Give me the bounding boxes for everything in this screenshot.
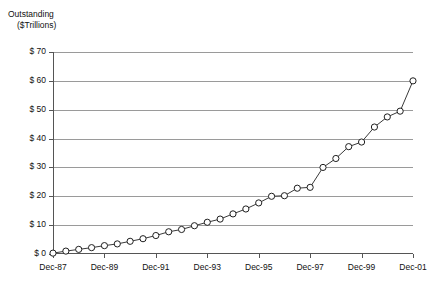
data-point-marker (114, 241, 120, 247)
chart-title: Outstanding ($Trillions) (8, 9, 56, 31)
x-axis-tick-mark (104, 254, 105, 258)
data-point-marker (166, 229, 172, 235)
y-axis-tick-label: $ 30 (2, 162, 46, 171)
data-point-marker (243, 206, 249, 212)
data-point-marker (178, 226, 184, 232)
y-axis-tick-label: $ 0 (2, 249, 46, 258)
data-point-marker (397, 108, 403, 114)
plot-area (53, 52, 413, 254)
data-point-marker (307, 184, 313, 190)
x-axis-tick-label: Dec-01 (387, 262, 439, 272)
y-axis-tick-label: $ 70 (2, 47, 46, 56)
x-axis-tick-label: Dec-87 (27, 262, 79, 272)
data-point-marker (50, 250, 56, 256)
x-axis-tick-label: Dec-93 (181, 262, 233, 272)
x-axis-tick-mark (207, 254, 208, 258)
data-point-marker (230, 211, 236, 217)
chart-title-line-2: ($Trillions) (8, 20, 56, 31)
data-point-marker (320, 164, 326, 170)
data-point-marker (371, 124, 377, 130)
series-markers (50, 78, 416, 256)
data-point-marker (101, 243, 107, 249)
x-axis-tick-label: Dec-91 (130, 262, 182, 272)
series-line (53, 81, 413, 253)
data-point-marker (191, 223, 197, 229)
x-axis-tick-label: Dec-97 (284, 262, 336, 272)
data-point-marker (204, 219, 210, 225)
x-axis-tick-mark (413, 254, 414, 258)
data-point-marker (256, 200, 262, 206)
data-point-marker (346, 144, 352, 150)
data-point-marker (127, 238, 133, 244)
data-point-marker (76, 246, 82, 252)
data-point-marker (63, 248, 69, 254)
x-axis-tick-mark (156, 254, 157, 258)
x-axis-tick-label: Dec-99 (336, 262, 388, 272)
data-series (53, 52, 413, 254)
x-axis-tick-label: Dec-89 (78, 262, 130, 272)
data-point-marker (88, 245, 94, 251)
data-point-marker (294, 185, 300, 191)
data-point-marker (281, 193, 287, 199)
data-point-marker (217, 216, 223, 222)
x-axis-tick-mark (259, 254, 260, 258)
data-point-marker (384, 114, 390, 120)
y-axis-tick-label: $ 50 (2, 105, 46, 114)
y-axis-tick-label: $ 60 (2, 76, 46, 85)
data-point-marker (410, 78, 416, 84)
data-point-marker (140, 236, 146, 242)
data-point-marker (268, 193, 274, 199)
x-axis-tick-mark (310, 254, 311, 258)
chart-container: Outstanding ($Trillions) $ 70$ 60$ 50$ 4… (0, 0, 440, 292)
data-point-marker (358, 139, 364, 145)
y-axis-tick-label: $ 20 (2, 191, 46, 200)
x-axis-tick-label: Dec-95 (233, 262, 285, 272)
data-point-marker (153, 232, 159, 238)
data-point-marker (333, 155, 339, 161)
y-axis-tick-label: $ 40 (2, 134, 46, 143)
y-axis-tick-label: $ 10 (2, 220, 46, 229)
chart-title-line-1: Outstanding (8, 9, 54, 19)
x-axis-tick-mark (362, 254, 363, 258)
